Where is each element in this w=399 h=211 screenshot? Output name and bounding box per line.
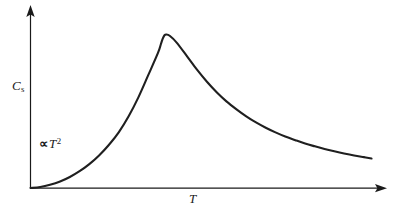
proportional-sign: ∝ bbox=[39, 137, 49, 151]
y-axis-label-symbol: C bbox=[12, 78, 21, 93]
x-axis-label: T bbox=[189, 192, 196, 205]
y-axis-label-subscript: s bbox=[21, 84, 25, 94]
t-squared-annotation: ∝T2 bbox=[39, 137, 61, 151]
x-axis-label-symbol: T bbox=[189, 191, 196, 206]
plot-area bbox=[0, 0, 399, 211]
specific-heat-curve bbox=[31, 34, 372, 188]
annotation-exponent: 2 bbox=[56, 136, 61, 146]
figure-container: Cs T ∝T2 bbox=[0, 0, 399, 211]
y-axis-label: Cs bbox=[12, 79, 25, 94]
